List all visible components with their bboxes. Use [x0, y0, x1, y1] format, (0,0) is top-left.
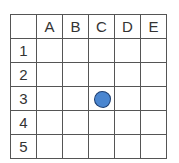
- game-board: A B C D E 1 2 3 4 5: [10, 14, 167, 159]
- cell-b2[interactable]: [63, 63, 89, 87]
- corner-cell: [11, 15, 37, 39]
- cell-a5[interactable]: [37, 135, 63, 159]
- row-header-3: 3: [11, 87, 37, 111]
- cell-c1[interactable]: [89, 39, 115, 63]
- column-header-b: B: [63, 15, 89, 39]
- cell-d2[interactable]: [115, 63, 141, 87]
- board-row-2: 2: [11, 63, 167, 87]
- cell-a3[interactable]: [37, 87, 63, 111]
- board-row-1: 1: [11, 39, 167, 63]
- cell-e5[interactable]: [141, 135, 167, 159]
- cell-a2[interactable]: [37, 63, 63, 87]
- cell-d3[interactable]: [115, 87, 141, 111]
- column-header-d: D: [115, 15, 141, 39]
- cell-a4[interactable]: [37, 111, 63, 135]
- cell-e1[interactable]: [141, 39, 167, 63]
- column-header-row: A B C D E: [11, 15, 167, 39]
- board-row-5: 5: [11, 135, 167, 159]
- row-header-1: 1: [11, 39, 37, 63]
- cell-b4[interactable]: [63, 111, 89, 135]
- cell-e3[interactable]: [141, 87, 167, 111]
- cell-b1[interactable]: [63, 39, 89, 63]
- row-header-5: 5: [11, 135, 37, 159]
- cell-c2[interactable]: [89, 63, 115, 87]
- cell-c3[interactable]: [89, 87, 115, 111]
- cell-d5[interactable]: [115, 135, 141, 159]
- column-header-e: E: [141, 15, 167, 39]
- cell-c5[interactable]: [89, 135, 115, 159]
- row-header-2: 2: [11, 63, 37, 87]
- board-row-4: 4: [11, 111, 167, 135]
- cell-e2[interactable]: [141, 63, 167, 87]
- row-header-4: 4: [11, 111, 37, 135]
- cell-a1[interactable]: [37, 39, 63, 63]
- column-header-c: C: [89, 15, 115, 39]
- board-row-3: 3: [11, 87, 167, 111]
- cell-b3[interactable]: [63, 87, 89, 111]
- cell-d4[interactable]: [115, 111, 141, 135]
- cell-b5[interactable]: [63, 135, 89, 159]
- cell-c4[interactable]: [89, 111, 115, 135]
- cell-d1[interactable]: [115, 39, 141, 63]
- column-header-a: A: [37, 15, 63, 39]
- blue-piece-icon[interactable]: [94, 91, 111, 108]
- cell-e4[interactable]: [141, 111, 167, 135]
